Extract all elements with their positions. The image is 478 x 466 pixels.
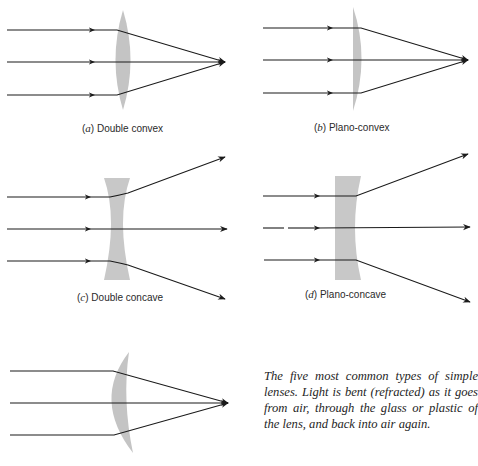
label-letter: b (317, 121, 323, 133)
figure-caption: The five most common types of simple len… (264, 368, 478, 432)
label-text: Double convex (97, 123, 163, 134)
plano-convex-lens (353, 7, 362, 111)
panel-double-concave (7, 157, 227, 299)
label-double-concave: (c) Double concave (77, 291, 163, 303)
label-text: Plano-convex (329, 122, 390, 133)
panel-plano-concave (263, 154, 470, 302)
label-letter: d (308, 288, 314, 300)
label-letter: a (85, 122, 91, 134)
label-text: Plano-concave (320, 289, 386, 300)
panel-meniscus (10, 352, 228, 453)
panel-double-convex (7, 10, 225, 110)
label-text: Double concave (91, 292, 163, 303)
label-letter: c (80, 291, 85, 303)
label-plano-convex: (b) Plano-convex (314, 121, 390, 133)
label-plano-concave: (d) Plano-concave (305, 288, 386, 300)
panel-plano-convex (263, 7, 468, 111)
label-double-convex: (a) Double convex (82, 122, 163, 134)
